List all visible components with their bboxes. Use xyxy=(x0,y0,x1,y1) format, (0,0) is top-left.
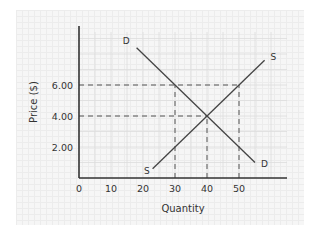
curves xyxy=(137,48,265,169)
supply-demand-chart: 010203040502.004.006.00 Quantity Price (… xyxy=(0,0,317,232)
demand-curve xyxy=(137,48,255,163)
x-tick-label: 30 xyxy=(169,183,181,194)
y-axis-title: Price ($) xyxy=(28,81,39,123)
y-tick-label: 6.00 xyxy=(52,80,73,91)
x-tick-label: 40 xyxy=(201,183,213,194)
demand-label-start: D xyxy=(123,36,130,46)
tick-labels: 010203040502.004.006.00 xyxy=(52,80,245,195)
supply-label-start: S xyxy=(144,166,150,176)
x-tick-label: 10 xyxy=(105,183,117,194)
supply-curve xyxy=(153,60,265,169)
supply-label-end: S xyxy=(271,52,277,62)
y-tick-label: 2.00 xyxy=(52,142,73,153)
demand-label-end: D xyxy=(261,159,268,169)
axes xyxy=(79,26,287,178)
plot-grid xyxy=(79,32,287,178)
x-tick-label: 50 xyxy=(233,183,245,194)
y-tick-label: 4.00 xyxy=(52,111,73,122)
x-axis-title: Quantity xyxy=(161,203,204,214)
x-tick-label: 0 xyxy=(76,183,82,194)
x-tick-label: 20 xyxy=(137,183,149,194)
